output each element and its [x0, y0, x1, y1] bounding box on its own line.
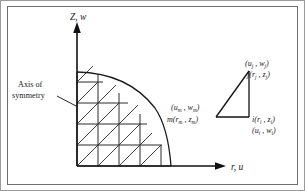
figure-outer-frame [1, 1, 305, 191]
axis-of-symmetry-leader-line [57, 96, 76, 106]
triangle-element-detail [216, 71, 249, 117]
axis-of-symmetry-annotation: Axis of symmetry [12, 80, 76, 106]
axes-group [73, 22, 226, 170]
node-i-displacement-label: (ui , wi) [252, 126, 276, 136]
figure-inner-frame [8, 7, 298, 185]
axis-of-symmetry-label-line2: symmetry [12, 91, 46, 100]
mesh-horizontal-lines [77, 82, 171, 166]
vertical-axis-label: Z, w [70, 12, 87, 22]
vertical-axis-arrow-icon [73, 22, 81, 33]
figure-container: Z, w r, u Axis of symmetry (uj , wj) j(r… [0, 0, 305, 191]
element-edge-j-to-m [216, 71, 249, 117]
mesh-group [77, 66, 171, 166]
node-j-coordinate-label: j(rj , zj) [246, 70, 270, 80]
axis-of-symmetry-label-line1: Axis of [18, 80, 43, 89]
node-m-coordinate-label: m(rm , zm) [167, 115, 199, 125]
horizontal-axis-arrow-icon [215, 162, 226, 170]
node-i-coordinate-label: i(ri , zi) [252, 115, 275, 125]
node-j-displacement-label: (uj , wj) [245, 59, 269, 69]
axisymmetric-mesh-diagram: Z, w r, u Axis of symmetry (uj , wj) j(r… [0, 0, 305, 191]
node-m-displacement-label: (um , wm) [171, 103, 200, 113]
mesh-vertical-lines [77, 72, 161, 166]
horizontal-axis-label: r, u [231, 162, 243, 172]
